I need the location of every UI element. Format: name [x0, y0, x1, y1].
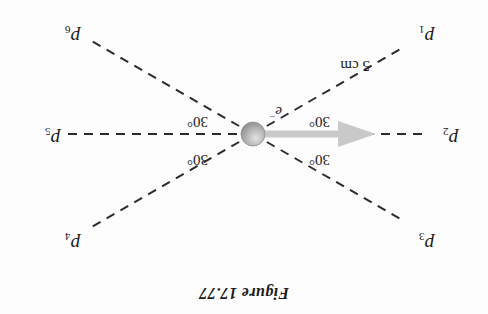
ray-to-p6: [90, 40, 253, 134]
angle-label-lower-right: 30°: [187, 113, 208, 130]
point-label-p1: p1: [419, 24, 434, 48]
electron-label: e−: [270, 103, 282, 122]
distance-label: 5 cm: [340, 57, 370, 74]
point-label-p4: p4: [65, 231, 80, 255]
point-label-p6: p6: [65, 24, 80, 48]
rotated-figure-group: Figure 17.77: [0, 0, 488, 314]
ray-to-p4: [90, 134, 253, 228]
point-label-p3: p3: [419, 231, 434, 255]
angle-label-upper-right: 30°: [187, 151, 208, 168]
point-label-p5: p5: [45, 126, 60, 150]
point-label-p2: p2: [443, 126, 458, 150]
figure-canvas: Figure 17.77: [0, 0, 488, 314]
ray-to-p3: [253, 134, 402, 220]
electron-sphere: [241, 122, 265, 146]
angle-label-upper-left: 30°: [309, 151, 330, 168]
velocity-arrow-head: [338, 121, 376, 147]
angle-label-lower-left: 30°: [309, 113, 330, 130]
